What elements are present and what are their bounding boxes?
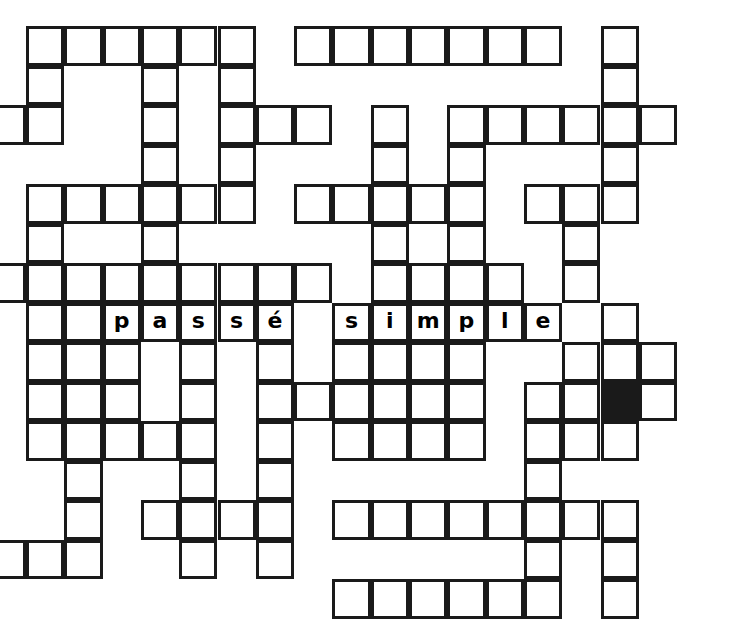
empty-cell[interactable] (294, 184, 332, 224)
letter-cell[interactable]: p (103, 303, 141, 343)
empty-cell[interactable] (141, 145, 179, 185)
letter-cell[interactable]: s (179, 303, 217, 343)
empty-cell[interactable] (371, 579, 409, 619)
empty-cell[interactable] (562, 224, 600, 264)
empty-cell[interactable] (371, 145, 409, 185)
empty-cell[interactable] (524, 461, 562, 501)
empty-cell[interactable] (601, 342, 639, 382)
empty-cell[interactable] (524, 579, 562, 619)
empty-cell[interactable] (103, 382, 141, 422)
empty-cell[interactable] (218, 500, 256, 540)
empty-cell[interactable] (26, 263, 64, 303)
empty-cell[interactable] (256, 540, 294, 580)
empty-cell[interactable] (447, 184, 485, 224)
empty-cell[interactable] (447, 105, 485, 145)
empty-cell[interactable] (447, 421, 485, 461)
empty-cell[interactable] (562, 342, 600, 382)
empty-cell[interactable] (64, 500, 102, 540)
empty-cell[interactable] (601, 500, 639, 540)
empty-cell[interactable] (447, 224, 485, 264)
empty-cell[interactable] (179, 500, 217, 540)
empty-cell[interactable] (562, 105, 600, 145)
empty-cell[interactable] (486, 579, 524, 619)
empty-cell[interactable] (486, 105, 524, 145)
empty-cell[interactable] (371, 500, 409, 540)
empty-cell[interactable] (103, 342, 141, 382)
empty-cell[interactable] (179, 382, 217, 422)
empty-cell[interactable] (639, 342, 677, 382)
empty-cell[interactable] (141, 105, 179, 145)
empty-cell[interactable] (409, 342, 447, 382)
empty-cell[interactable] (0, 540, 26, 580)
empty-cell[interactable] (371, 184, 409, 224)
empty-cell[interactable] (179, 540, 217, 580)
empty-cell[interactable] (103, 184, 141, 224)
empty-cell[interactable] (332, 26, 370, 66)
empty-cell[interactable] (371, 342, 409, 382)
empty-cell[interactable] (524, 421, 562, 461)
empty-cell[interactable] (371, 26, 409, 66)
empty-cell[interactable] (332, 421, 370, 461)
empty-cell[interactable] (447, 145, 485, 185)
empty-cell[interactable] (218, 105, 256, 145)
empty-cell[interactable] (409, 26, 447, 66)
empty-cell[interactable] (601, 540, 639, 580)
empty-cell[interactable] (141, 224, 179, 264)
empty-cell[interactable] (179, 184, 217, 224)
empty-cell[interactable] (256, 263, 294, 303)
empty-cell[interactable] (103, 263, 141, 303)
empty-cell[interactable] (447, 382, 485, 422)
empty-cell[interactable] (524, 540, 562, 580)
empty-cell[interactable] (447, 579, 485, 619)
empty-cell[interactable] (26, 224, 64, 264)
letter-cell[interactable]: a (141, 303, 179, 343)
empty-cell[interactable] (26, 382, 64, 422)
empty-cell[interactable] (256, 461, 294, 501)
empty-cell[interactable] (601, 421, 639, 461)
empty-cell[interactable] (562, 421, 600, 461)
empty-cell[interactable] (409, 500, 447, 540)
letter-cell[interactable]: s (218, 303, 256, 343)
empty-cell[interactable] (218, 26, 256, 66)
empty-cell[interactable] (179, 421, 217, 461)
empty-cell[interactable] (447, 26, 485, 66)
empty-cell[interactable] (26, 184, 64, 224)
empty-cell[interactable] (639, 105, 677, 145)
empty-cell[interactable] (64, 461, 102, 501)
empty-cell[interactable] (179, 263, 217, 303)
empty-cell[interactable] (141, 66, 179, 106)
empty-cell[interactable] (141, 500, 179, 540)
empty-cell[interactable] (524, 500, 562, 540)
empty-cell[interactable] (409, 184, 447, 224)
empty-cell[interactable] (332, 382, 370, 422)
empty-cell[interactable] (601, 66, 639, 106)
empty-cell[interactable] (26, 26, 64, 66)
empty-cell[interactable] (601, 105, 639, 145)
empty-cell[interactable] (562, 263, 600, 303)
empty-cell[interactable] (141, 184, 179, 224)
empty-cell[interactable] (26, 303, 64, 343)
empty-cell[interactable] (218, 145, 256, 185)
empty-cell[interactable] (141, 263, 179, 303)
empty-cell[interactable] (179, 26, 217, 66)
empty-cell[interactable] (141, 26, 179, 66)
empty-cell[interactable] (524, 105, 562, 145)
empty-cell[interactable] (103, 26, 141, 66)
empty-cell[interactable] (332, 579, 370, 619)
empty-cell[interactable] (256, 421, 294, 461)
letter-cell[interactable]: l (486, 303, 524, 343)
empty-cell[interactable] (294, 26, 332, 66)
empty-cell[interactable] (371, 224, 409, 264)
empty-cell[interactable] (256, 382, 294, 422)
empty-cell[interactable] (524, 184, 562, 224)
empty-cell[interactable] (26, 66, 64, 106)
empty-cell[interactable] (256, 500, 294, 540)
empty-cell[interactable] (371, 382, 409, 422)
empty-cell[interactable] (562, 382, 600, 422)
empty-cell[interactable] (601, 579, 639, 619)
letter-cell[interactable]: i (371, 303, 409, 343)
empty-cell[interactable] (26, 540, 64, 580)
empty-cell[interactable] (218, 184, 256, 224)
empty-cell[interactable] (332, 184, 370, 224)
empty-cell[interactable] (26, 421, 64, 461)
